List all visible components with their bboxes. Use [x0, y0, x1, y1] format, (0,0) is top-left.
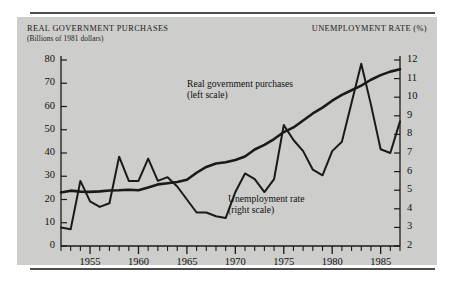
right-axis-tick-label: 11 — [407, 72, 429, 83]
left-axis-tick-label: 60 — [33, 100, 55, 111]
left-axis-tick-label: 80 — [33, 53, 55, 64]
left-axis-tick-label: 0 — [33, 239, 55, 250]
plot-svg — [0, 0, 451, 283]
left-axis-tick-label: 50 — [33, 123, 55, 134]
x-axis-tick-label: 1955 — [68, 256, 112, 267]
left-axis-tick-label: 30 — [33, 169, 55, 180]
series-line-unemployment-rate — [61, 64, 400, 230]
right-axis-tick-label: 12 — [407, 53, 429, 64]
x-axis-tick-label: 1980 — [310, 256, 354, 267]
figure-container: REAL GOVERNMENT PURCHASES (Billions of 1… — [0, 0, 451, 283]
right-axis-tick-label: 5 — [407, 183, 429, 194]
x-axis-tick-label: 1970 — [213, 256, 257, 267]
right-axis-tick-label: 6 — [407, 165, 429, 176]
right-axis-tick-label: 7 — [407, 146, 429, 157]
series-line-government-purchases — [61, 69, 400, 192]
left-axis-tick-label: 10 — [33, 216, 55, 227]
right-axis-tick-label: 9 — [407, 109, 429, 120]
left-axis-tick-label: 70 — [33, 76, 55, 87]
left-axis-tick-label: 20 — [33, 193, 55, 204]
x-axis-tick-label: 1960 — [116, 256, 160, 267]
right-axis-tick-label: 8 — [407, 127, 429, 138]
right-axis-tick-label: 4 — [407, 202, 429, 213]
x-axis-tick-label: 1965 — [165, 256, 209, 267]
x-axis-tick-label: 1975 — [262, 256, 306, 267]
right-axis-tick-label: 2 — [407, 239, 429, 250]
x-axis-tick-label: 1985 — [359, 256, 403, 267]
right-axis-tick-label: 10 — [407, 90, 429, 101]
right-axis-tick-label: 3 — [407, 220, 429, 231]
left-axis-tick-label: 40 — [33, 146, 55, 157]
